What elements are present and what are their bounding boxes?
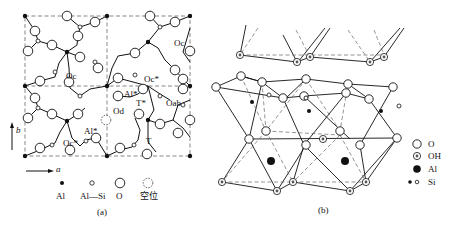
legend-b-oh-label: OH — [428, 151, 441, 161]
tetrahedral-layer — [216, 76, 397, 145]
label-oab: Oab — [166, 98, 181, 108]
axis-b-label: b — [16, 125, 21, 135]
legend-b-o-label: O — [428, 139, 435, 149]
al-atoms-b — [267, 157, 349, 165]
label-oc-star-mid: Oc* — [144, 74, 159, 84]
axis-a-label: a — [56, 164, 61, 174]
panel-b-caption: (b) — [318, 205, 329, 215]
legend-vacancy-symbol — [143, 178, 153, 188]
b-axis-arrow-icon — [10, 122, 14, 128]
label-al-star-low: Al* — [84, 126, 98, 136]
label-od: Od — [113, 106, 124, 116]
legend-b: O OH Al Si — [408, 139, 441, 187]
legend-o-label: O — [116, 191, 123, 201]
vacancy-site — [101, 115, 111, 125]
legend-b-al-label: Al — [428, 164, 437, 174]
legend-b-al-symbol — [413, 165, 421, 173]
panel-b-polyhedral-layers: O OH Al Si (b) — [212, 25, 442, 215]
a-axis-arrow-icon — [48, 169, 54, 173]
legend-vacancy-label: 空位 — [140, 190, 158, 201]
label-t: T — [146, 136, 152, 146]
oh-groups-bottom — [218, 135, 369, 194]
label-oc-star-low: Oc* — [63, 138, 78, 148]
legend-al-si-label: Al—Si — [80, 191, 106, 201]
legend-al-label: Al — [56, 191, 65, 201]
oxygen-atoms-b — [212, 72, 401, 149]
legend-o-symbol — [115, 178, 125, 188]
legend-a: Al Al—Si O 空位 — [56, 178, 158, 201]
top-partial-layer — [236, 25, 404, 66]
legend-al-si-symbol — [90, 181, 94, 185]
panel-a-caption: (a) — [97, 207, 107, 217]
label-oc-left: Oc — [66, 71, 77, 81]
legend-b-si-label: Si — [428, 177, 436, 187]
label-t-star: T* — [136, 98, 146, 108]
panel-a-projection: Oc Oc Oc* Al* T* Oab Od Al* Oc* T b a Al… — [10, 11, 195, 217]
label-oc-top-right: Oc — [174, 38, 185, 48]
legend-b-si-open-symbol — [415, 180, 419, 184]
legend-b-si-filled-symbol — [408, 180, 412, 184]
crystal-structure-figure: Oc Oc Oc* Al* T* Oab Od Al* Oc* T b a Al… — [0, 0, 450, 225]
legend-al-symbol — [60, 181, 64, 185]
legend-b-o-symbol — [413, 140, 421, 148]
